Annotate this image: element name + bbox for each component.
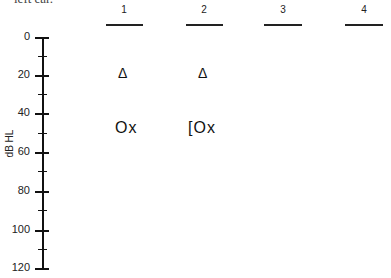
- column-underline-1: [106, 24, 143, 26]
- circle-cross-marker-col1: Ox: [115, 120, 137, 135]
- y-major-tick: [35, 113, 49, 115]
- column-header-1: 1: [104, 4, 144, 15]
- cropped-caption: left ear.: [14, 0, 53, 7]
- y-minor-tick: [38, 249, 47, 250]
- y-tick-label-60: 60: [4, 145, 30, 157]
- y-tick-label-80: 80: [4, 184, 30, 196]
- triangle-marker-col2: Δ: [198, 66, 207, 81]
- column-header-2: 2: [184, 4, 224, 15]
- y-major-tick: [35, 230, 49, 232]
- y-minor-tick: [38, 171, 47, 172]
- y-minor-tick: [38, 56, 47, 57]
- y-minor-tick: [38, 94, 47, 95]
- y-major-tick: [35, 268, 49, 270]
- column-header-3: 3: [263, 4, 303, 15]
- y-tick-label-40: 40: [4, 106, 30, 118]
- y-major-tick: [35, 37, 49, 39]
- column-header-4: 4: [344, 4, 384, 15]
- y-tick-label-100: 100: [4, 223, 30, 235]
- y-tick-label-20: 20: [4, 68, 30, 80]
- column-underline-4: [345, 24, 383, 26]
- column-underline-3: [264, 24, 302, 26]
- y-tick-label-0: 0: [4, 30, 30, 42]
- y-minor-tick: [38, 133, 47, 134]
- y-tick-label-120: 120: [4, 261, 30, 273]
- column-underline-2: [186, 24, 223, 26]
- y-minor-tick: [38, 210, 47, 211]
- y-major-tick: [35, 75, 49, 77]
- bracket-circle-cross-marker-col2: [Ox: [188, 120, 216, 135]
- y-major-tick: [35, 152, 49, 154]
- triangle-marker-col1: Δ: [118, 66, 127, 81]
- y-major-tick: [35, 191, 49, 193]
